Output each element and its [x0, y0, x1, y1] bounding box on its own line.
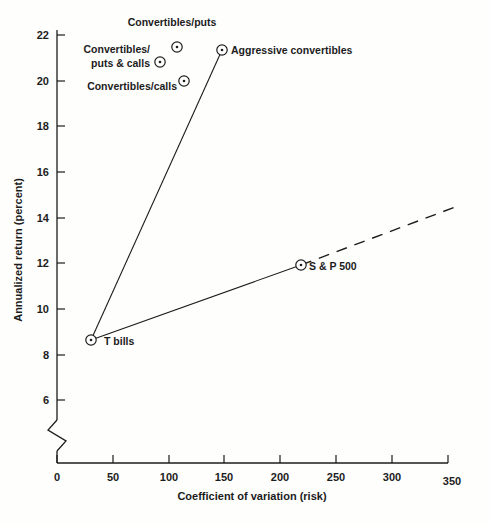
label-t-bills: T bills	[104, 335, 134, 347]
point-aggressive-convertibles[interactable]	[217, 45, 227, 55]
y-axis-break-zigzag	[48, 420, 66, 451]
x-tick-label-100: 100	[160, 471, 178, 483]
y-tick-label-14: 14	[37, 212, 50, 224]
point-convertibles-calls[interactable]	[179, 76, 189, 86]
line-convertibles-frontier	[91, 50, 222, 340]
y-tick-label-12: 12	[37, 257, 49, 269]
point-sp500[interactable]	[296, 260, 306, 270]
x-tick-labels-group: 0 50 100 150 200 250 300 350	[54, 471, 461, 487]
x-tick-label-200: 200	[271, 471, 289, 483]
line-market-extension	[301, 206, 458, 265]
axes-group	[48, 30, 448, 463]
x-tick-label-300: 300	[383, 471, 401, 483]
y-tick-label-8: 8	[43, 349, 49, 361]
label-convertibles-puts-calls-line1: Convertibles/	[83, 43, 150, 55]
y-tick-labels-group: 22 20 18 16 14 12 10 8 6	[37, 29, 50, 406]
label-convertibles-puts: Convertibles/puts	[128, 16, 217, 28]
y-tick-label-10: 10	[37, 303, 49, 315]
y-axis-title: Annualized return (percent)	[12, 178, 24, 322]
x-tick-label-250: 250	[327, 471, 345, 483]
label-aggressive-convertibles: Aggressive convertibles	[231, 44, 353, 56]
scatter-plot: 22 20 18 16 14 12 10 8 6 0 50 100 150	[0, 0, 490, 523]
y-ticks-group	[57, 35, 65, 400]
point-t-bills[interactable]	[86, 335, 96, 345]
point-convertibles-puts[interactable]	[172, 42, 182, 52]
line-market	[91, 265, 301, 340]
x-ticks-group	[57, 455, 448, 463]
data-lines-group	[91, 50, 458, 340]
point-labels-group: Convertibles/puts Convertibles/ puts & c…	[83, 16, 356, 347]
y-tick-label-20: 20	[37, 75, 49, 87]
x-tick-label-50: 50	[107, 471, 119, 483]
x-tick-label-150: 150	[215, 471, 233, 483]
label-convertibles-puts-calls-line2: puts & calls	[91, 57, 150, 69]
point-convertibles-puts-calls[interactable]	[155, 57, 165, 67]
y-tick-label-22: 22	[37, 29, 49, 41]
label-sp500: S & P 500	[309, 260, 357, 272]
x-axis-title: Coefficient of variation (risk)	[177, 490, 326, 502]
y-tick-label-18: 18	[37, 120, 49, 132]
chart-figure: 22 20 18 16 14 12 10 8 6 0 50 100 150	[0, 0, 490, 523]
y-tick-label-6: 6	[43, 394, 49, 406]
x-tick-label-350: 350	[443, 475, 461, 487]
x-tick-label-0: 0	[54, 471, 60, 483]
label-convertibles-calls: Convertibles/calls	[87, 80, 177, 92]
y-tick-label-16: 16	[37, 166, 49, 178]
